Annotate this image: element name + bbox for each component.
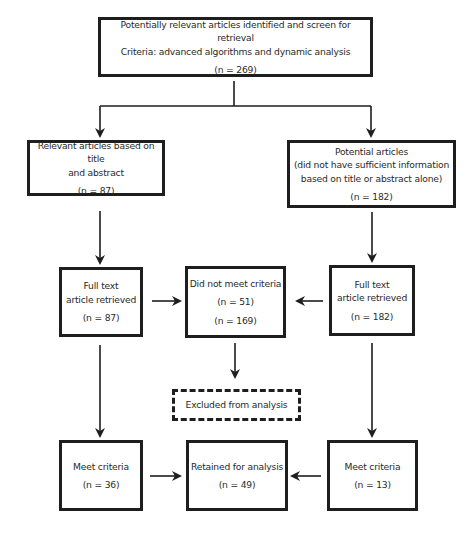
identified-line2: Criteria: advanced algorithms and dynami… — [121, 45, 350, 58]
box-fulltext-left: Full text article retrieved (n = 87) — [59, 267, 143, 337]
fulltext-left-line2: article retrieved — [66, 293, 136, 306]
identified-line1: Potentially relevant articles identified… — [101, 18, 370, 45]
retained-count: (n = 49) — [219, 478, 256, 491]
meet-right-count: (n = 13) — [354, 478, 391, 491]
fulltext-right-count: (n = 182) — [351, 310, 393, 323]
meet-left-count: (n = 36) — [83, 478, 120, 491]
identified-count: (n = 269) — [214, 63, 256, 76]
fulltext-left-line1: Full text — [84, 279, 119, 292]
box-did-not-meet: Did not meet criteria (n = 51) (n = 169) — [185, 266, 286, 338]
notmeet-count2: (n = 169) — [214, 314, 256, 327]
fulltext-left-count: (n = 87) — [83, 311, 120, 324]
box-potential: Potential articles (did not have suffici… — [287, 140, 456, 208]
potential-line3: based on title or abstract alone) — [301, 172, 442, 185]
box-relevant: Relevant articles based on title and abs… — [27, 140, 165, 196]
box-meet-left: Meet criteria (n = 36) — [59, 440, 143, 511]
notmeet-count1: (n = 51) — [217, 295, 254, 308]
potential-line1: Potential articles — [335, 145, 408, 158]
potential-count: (n = 182) — [350, 190, 392, 203]
relevant-line1: Relevant articles based on title — [30, 139, 162, 166]
excluded-line1: Excluded from analysis — [186, 398, 288, 411]
potential-line2: (did not have sufficient information — [294, 158, 449, 171]
box-meet-right: Meet criteria (n = 13) — [327, 440, 418, 511]
relevant-line2: and abstract — [68, 166, 124, 179]
fulltext-right-line2: article retrieved — [337, 291, 407, 304]
box-identified: Potentially relevant articles identified… — [98, 17, 373, 77]
box-fulltext-right: Full text article retrieved (n = 182) — [329, 265, 415, 336]
box-retained: Retained for analysis (n = 49) — [186, 440, 288, 511]
notmeet-line1: Did not meet criteria — [190, 277, 282, 290]
meet-right-line1: Meet criteria — [345, 460, 401, 473]
retained-line1: Retained for analysis — [191, 460, 283, 473]
box-excluded: Excluded from analysis — [172, 389, 301, 421]
relevant-count: (n = 87) — [78, 184, 115, 197]
meet-left-line1: Meet criteria — [73, 460, 129, 473]
fulltext-right-line1: Full text — [355, 278, 390, 291]
